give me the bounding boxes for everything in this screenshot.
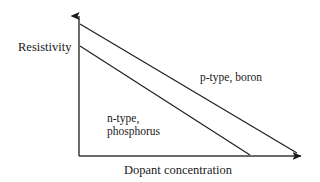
plot-svg: [0, 0, 320, 182]
ntype-phosphorus-line: [80, 46, 250, 155]
ntype-annotation-line1: n-type,: [107, 112, 139, 124]
ntype-phosphorus-annotation: n-type,phosphorus: [107, 112, 160, 138]
y-axis-label: Resistivity: [18, 40, 71, 54]
ptype-boron-annotation: p-type, boron: [200, 71, 262, 84]
figure-container: Resistivity Dopant concentration p-type,…: [0, 0, 320, 182]
x-axis-label: Dopant concentration: [124, 163, 232, 177]
ntype-annotation-line2: phosphorus: [107, 125, 160, 137]
